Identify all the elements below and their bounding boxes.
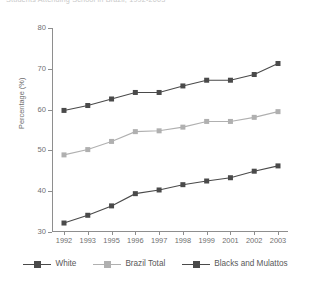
chart-figure: Students Attending School in Brazil, 199… (0, 0, 311, 285)
x-tick-label: 1998 (175, 237, 191, 244)
y-tick-label: 30 (38, 228, 46, 236)
legend-item-white[interactable]: White (23, 260, 76, 269)
data-point-marker (228, 78, 233, 83)
y-tick-label: 70 (38, 65, 46, 73)
data-point-marker (252, 72, 257, 77)
data-point-marker (252, 115, 257, 120)
y-tick-label: 50 (38, 147, 46, 155)
data-point-marker (180, 182, 185, 187)
data-point-marker (85, 103, 90, 108)
data-point-marker (62, 108, 67, 113)
data-point-marker (85, 213, 90, 218)
legend-swatch-icon (23, 260, 51, 269)
data-point-marker (62, 152, 67, 157)
y-tick-label: 60 (38, 106, 46, 114)
plot-area: 304050607080 199219931995199619971998199… (52, 28, 288, 232)
x-tick-label: 1997 (151, 237, 167, 244)
x-tick-label: 1993 (80, 237, 96, 244)
y-tick-label: 40 (38, 187, 46, 195)
data-point-marker (133, 191, 138, 196)
data-point-marker (157, 90, 162, 95)
data-point-marker (228, 175, 233, 180)
data-point-marker (109, 139, 114, 144)
series-white (62, 61, 281, 113)
data-point-marker (157, 128, 162, 133)
x-tick-label: 1992 (56, 237, 72, 244)
x-tick-label: 1996 (127, 237, 143, 244)
x-tick-label: 2002 (246, 237, 262, 244)
legend-label: Brazil Total (125, 260, 165, 268)
legend-label: White (55, 260, 76, 268)
data-point-marker (276, 163, 281, 168)
data-point-marker (109, 203, 114, 208)
series-line (64, 63, 278, 110)
y-axis-title: Percentage (%) (17, 78, 26, 129)
data-point-marker (204, 179, 209, 184)
y-tick-label: 80 (38, 24, 46, 32)
x-tick-label: 2003 (270, 237, 286, 244)
series-layer (52, 28, 288, 232)
series-line (64, 166, 278, 223)
series-line (64, 112, 278, 155)
data-point-marker (204, 78, 209, 83)
chart-legend: WhiteBrazil TotalBlacks and Mulattos (0, 256, 311, 272)
y-tick-mark (48, 232, 52, 233)
series-brazil-total (62, 109, 281, 157)
data-point-marker (228, 119, 233, 124)
x-tick-label: 1999 (198, 237, 214, 244)
data-point-marker (133, 129, 138, 134)
data-point-marker (133, 90, 138, 95)
legend-swatch-icon (93, 260, 121, 269)
data-point-marker (276, 61, 281, 66)
legend-marker (193, 261, 200, 268)
x-tick-label: 1995 (103, 237, 119, 244)
data-point-marker (180, 125, 185, 130)
legend-marker (34, 261, 41, 268)
legend-item-blacks-and-mulattos[interactable]: Blacks and Mulattos (182, 260, 287, 269)
data-point-marker (180, 83, 185, 88)
data-point-marker (276, 109, 281, 114)
legend-swatch-icon (182, 260, 210, 269)
series-blacks-and-mulattos (62, 163, 281, 225)
x-tick-label: 2001 (222, 237, 238, 244)
chart-title: Students Attending School in Brazil, 199… (6, 0, 306, 5)
data-point-marker (62, 221, 67, 226)
data-point-marker (252, 169, 257, 174)
data-point-marker (157, 187, 162, 192)
legend-label: Blacks and Mulattos (214, 260, 287, 268)
data-point-marker (85, 147, 90, 152)
legend-marker (104, 261, 111, 268)
data-point-marker (204, 119, 209, 124)
data-point-marker (109, 96, 114, 101)
legend-item-brazil-total[interactable]: Brazil Total (93, 260, 165, 269)
